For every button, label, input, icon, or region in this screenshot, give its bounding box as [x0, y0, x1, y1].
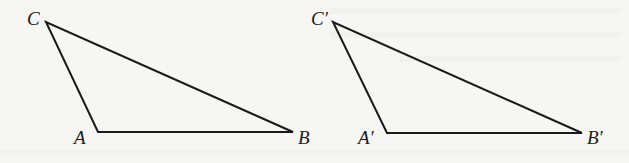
vertex-label-a: A	[74, 128, 86, 147]
vertex-label-c: C	[27, 9, 40, 28]
vertex-label-b: B	[298, 128, 310, 147]
vertex-label-a-prime: A′	[358, 128, 374, 147]
triangle-abc	[46, 22, 293, 132]
vertex-label-c-prime: C′	[311, 9, 328, 28]
vertex-label-b-prime: B′	[587, 128, 603, 147]
triangle-a-prime-b-prime-c-prime	[333, 22, 582, 133]
